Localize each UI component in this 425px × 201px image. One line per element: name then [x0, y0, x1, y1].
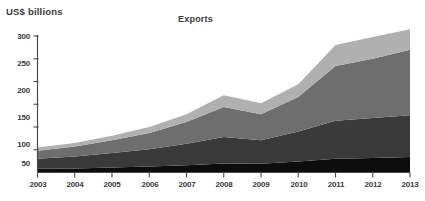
x-tick-marks	[38, 173, 411, 178]
stacked-areas	[38, 29, 411, 172]
x-tick-label-2013: 2013	[393, 180, 425, 189]
y-tick-label-50: 50	[4, 159, 30, 168]
x-tick-label-2010: 2010	[282, 180, 316, 189]
y-tick-label-250: 250	[4, 59, 30, 68]
x-tick-label-2012: 2012	[356, 180, 390, 189]
x-tick-label-2003: 2003	[21, 180, 55, 189]
x-tick-label-2006: 2006	[133, 180, 167, 189]
x-tick-label-2011: 2011	[319, 180, 353, 189]
x-tick-label-2008: 2008	[207, 180, 241, 189]
exports-area-chart: US$ billions Exports 300 250 200 150 100…	[0, 0, 425, 201]
y-tick-label-100: 100	[4, 140, 30, 149]
y-tick-label-300: 300	[4, 32, 30, 41]
x-tick-label-2009: 2009	[244, 180, 278, 189]
y-tick-label-200: 200	[4, 86, 30, 95]
y-tick-label-150: 150	[4, 113, 30, 122]
x-tick-label-2004: 2004	[58, 180, 92, 189]
x-tick-label-2007: 2007	[170, 180, 204, 189]
x-tick-label-2005: 2005	[95, 180, 129, 189]
plot-area	[0, 0, 425, 201]
